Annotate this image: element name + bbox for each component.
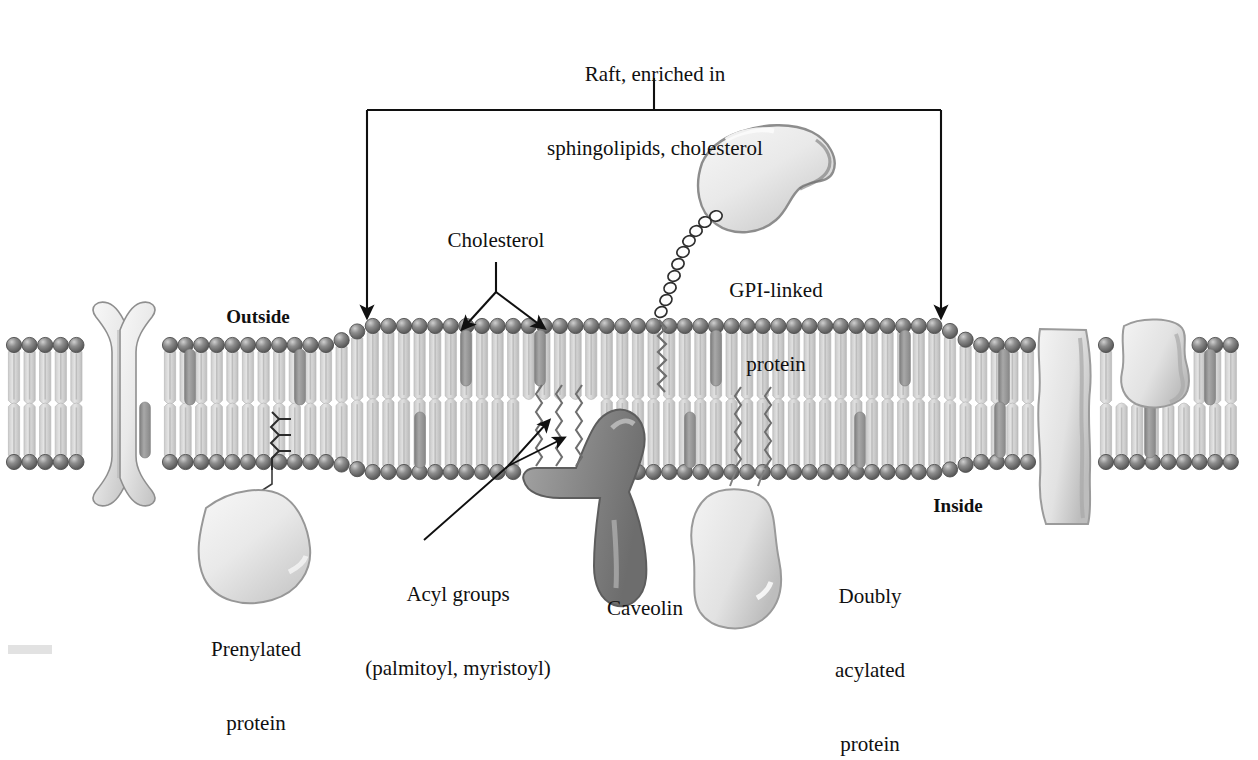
raft-label-line2: sphingolipids, cholesterol xyxy=(399,136,911,161)
doubly-acylated-line1: Doubly xyxy=(790,584,950,609)
cholesterol-label: Cholesterol xyxy=(396,228,596,253)
acyl-label-line1: Acyl groups xyxy=(318,582,598,607)
caveolin-label: Caveolin xyxy=(570,596,720,621)
raft-label: Raft, enriched in sphingolipids, cholest… xyxy=(399,12,911,210)
raft-label-line1: Raft, enriched in xyxy=(399,62,911,87)
transmembrane-protein-right-2 xyxy=(1121,319,1189,407)
cholesterol-leader-lines xyxy=(466,262,540,325)
doubly-acylated-protein-label: Doubly acylated protein xyxy=(790,534,950,760)
doubly-acylated-line3: protein xyxy=(790,732,950,757)
transmembrane-protein-right-1 xyxy=(1038,329,1091,524)
bottom-bar-mark xyxy=(8,645,52,654)
outside-label: Outside xyxy=(198,306,318,328)
acyl-groups-label: Acyl groups (palmitoyl, myristoyl) xyxy=(318,532,598,730)
doubly-acylated-line2: acylated xyxy=(790,658,950,683)
inside-label: Inside xyxy=(908,495,1008,517)
gpi-label-line1: GPI-linked xyxy=(696,278,856,303)
acyl-label-line2: (palmitoyl, myristoyl) xyxy=(318,656,598,681)
gpi-linked-protein-label: GPI-linked protein xyxy=(696,228,856,426)
gpi-label-line2: protein xyxy=(696,352,856,377)
